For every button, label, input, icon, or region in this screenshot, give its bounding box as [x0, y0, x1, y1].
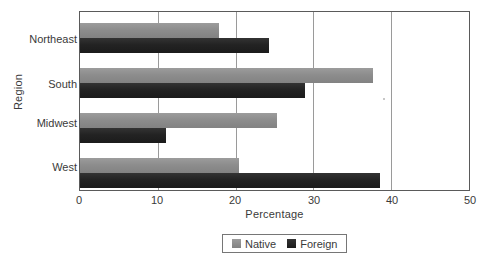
x-tick-label-10: 10	[151, 194, 163, 206]
bar-northeast-native	[80, 23, 219, 38]
bar-west-native	[80, 158, 239, 173]
bar-south-native	[80, 68, 373, 83]
scan-artifact-speck	[383, 98, 385, 100]
bar-midwest-foreign	[80, 128, 166, 143]
x-tick-label-20: 20	[229, 194, 241, 206]
y-tick-label-south: South	[3, 78, 77, 90]
x-tick-label-50: 50	[464, 194, 476, 206]
x-axis-title: Percentage	[79, 208, 470, 220]
x-tick-label-0: 0	[76, 194, 82, 206]
y-tick-label-northeast: Northeast	[3, 33, 77, 45]
gridline-30	[313, 12, 314, 190]
bar-west-foreign	[80, 173, 380, 188]
x-tick-label-30: 30	[308, 194, 320, 206]
y-axis-tick-labels: Northeast South Midwest West	[0, 0, 77, 269]
legend-label-foreign: Foreign	[300, 238, 337, 250]
legend-label-native: Native	[245, 238, 276, 250]
legend-swatch-native-icon	[232, 239, 241, 248]
bar-chart: Region Northeast South Midwest West 0 10…	[0, 0, 491, 269]
plot-area	[79, 11, 470, 191]
gridline-40	[391, 12, 392, 190]
y-tick-label-west: West	[3, 161, 77, 173]
bar-midwest-native	[80, 113, 277, 128]
x-tick-label-40: 40	[386, 194, 398, 206]
chart-legend: Native Foreign	[222, 234, 347, 253]
y-tick-label-midwest: Midwest	[3, 117, 77, 129]
legend-item-native: Native	[232, 238, 276, 250]
bar-south-foreign	[80, 83, 305, 98]
bar-northeast-foreign	[80, 38, 269, 53]
legend-item-foreign: Foreign	[287, 238, 337, 250]
legend-swatch-foreign-icon	[287, 239, 296, 248]
